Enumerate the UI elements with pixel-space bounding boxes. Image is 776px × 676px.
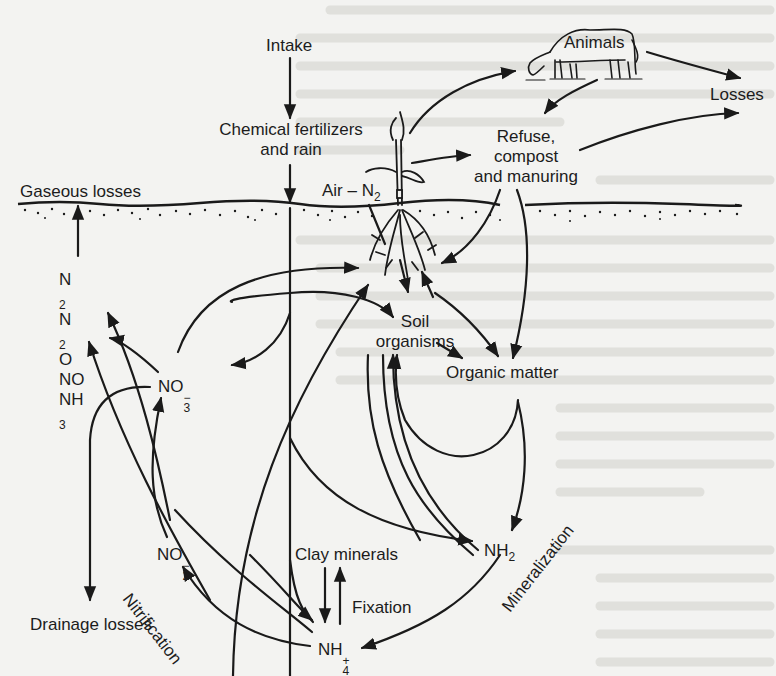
gas-n2o: N2O	[59, 310, 85, 370]
animals-label: Animals	[564, 33, 624, 53]
arrow-fertilizer-to-no3	[232, 313, 290, 365]
arrow-plant-to-animals	[410, 71, 515, 133]
gas-n2: N2	[59, 270, 85, 310]
arrow-animals-to-refuse	[545, 80, 597, 113]
arrow-refuse-to-organic-matter	[513, 190, 527, 358]
refuse-compost-manuring-label: Refuse, compost and manuring	[470, 127, 582, 187]
no2-label: NO−2	[157, 545, 192, 565]
gaseous-species-list: N2 N2O NO NH3	[59, 270, 85, 430]
nh4-label: NH+4	[318, 640, 352, 660]
arrow-plant-to-refuse	[412, 155, 470, 163]
arrow-refuse-to-losses	[580, 113, 738, 150]
gaseous-losses-label: Gaseous losses	[20, 182, 141, 202]
losses-label: Losses	[710, 85, 764, 105]
fixation-label: Fixation	[352, 598, 412, 618]
no3-label: NO−3	[158, 377, 193, 397]
soil-organisms-label: Soil organisms	[365, 312, 465, 352]
gas-nh3: NH3	[59, 390, 85, 430]
gas-no: NO	[59, 370, 85, 390]
arrow-animals-to-losses	[647, 52, 740, 78]
nitrogen-cycle-diagram: Intake Chemical fertilizers and rain Ani…	[0, 0, 776, 676]
intake-label: Intake	[266, 36, 312, 56]
chemical-fertilizers-label: Chemical fertilizers and rain	[218, 120, 364, 160]
air-n2-label: Air – N2	[322, 181, 381, 202]
arrow-to-roots-from-bottom	[233, 285, 368, 676]
clay-minerals-label: Clay minerals	[295, 545, 398, 565]
nh2-label: NH2	[484, 541, 515, 562]
arrow-no3-to-roots	[178, 268, 358, 352]
arrow-no3-to-drainage	[90, 387, 150, 600]
organic-matter-label: Organic matter	[446, 363, 558, 383]
